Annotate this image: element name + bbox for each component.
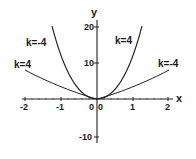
origin-label: 0 xyxy=(98,102,103,112)
x-tick-label: -2 xyxy=(20,102,28,112)
annotation-shallow-right: k=-4 xyxy=(158,58,179,69)
origin-label: 0 xyxy=(89,102,94,112)
annotation-steep-right: k=4 xyxy=(115,35,132,46)
y-tick-label: 10 xyxy=(84,58,94,68)
y-tick-label: -10 xyxy=(79,132,92,142)
y-tick-label: 20 xyxy=(84,22,94,32)
y-axis-label: y xyxy=(91,6,98,18)
x-tick-label: 1 xyxy=(130,102,135,112)
chart-canvas: -2 -1 0 0 1 2 20 10 -10 x y k=-4 k=4 k=4… xyxy=(0,0,196,159)
curve-shallow-left-k4 xyxy=(25,70,97,99)
x-tick-label: -1 xyxy=(56,102,64,112)
x-tick-label: 2 xyxy=(165,102,170,112)
curve-shallow-right-km4 xyxy=(97,70,169,99)
annotation-shallow-left: k=4 xyxy=(14,59,31,70)
x-axis-label: x xyxy=(176,92,183,104)
annotation-steep-left: k=-4 xyxy=(26,37,47,48)
